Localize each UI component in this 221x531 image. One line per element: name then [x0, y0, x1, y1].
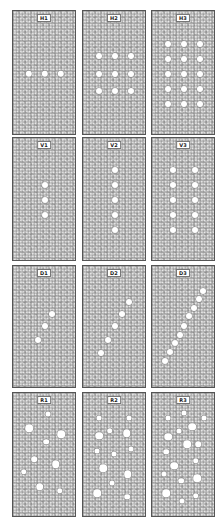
hole-dot: [170, 197, 176, 203]
hole-dot: [52, 460, 60, 468]
hole-dot: [96, 71, 102, 77]
hole-dot: [191, 305, 197, 311]
panel-r2: R2: [82, 392, 146, 517]
hole-dot: [128, 71, 134, 77]
panel-label: R2: [107, 396, 121, 404]
hole-dot: [31, 456, 37, 462]
hole-dot: [43, 439, 49, 445]
panel-label: D2: [107, 269, 121, 277]
hole-dot: [189, 423, 197, 431]
panel-r3: R3: [151, 392, 215, 517]
hole-dot: [112, 197, 118, 203]
hole-dot: [172, 340, 178, 346]
hole-dot: [167, 349, 173, 355]
hole-dot: [97, 416, 102, 421]
hole-dot: [128, 53, 134, 59]
panel-d3: D3: [151, 265, 215, 388]
hole-dot: [165, 56, 171, 62]
panel-label: D3: [176, 269, 190, 277]
hole-dot: [192, 227, 198, 233]
hole-dot: [49, 311, 55, 317]
hole-dot: [123, 429, 131, 437]
hole-dot: [181, 41, 187, 47]
hole-dot: [181, 56, 187, 62]
hole-dot: [170, 227, 176, 233]
hole-dot: [112, 212, 118, 218]
hole-dot: [182, 411, 187, 416]
hole-dot: [107, 428, 113, 434]
panel-label: V1: [37, 141, 51, 149]
hole-dot: [186, 313, 192, 319]
hole-dot: [42, 212, 48, 218]
hole-dot: [196, 296, 202, 302]
hole-dot: [181, 101, 187, 107]
hole-dot: [95, 448, 100, 453]
panel-label: V2: [107, 141, 121, 149]
hole-dot: [170, 167, 176, 173]
hole-dot: [197, 56, 203, 62]
hole-dot: [176, 428, 181, 433]
hole-dot: [181, 71, 187, 77]
panel-label: V3: [176, 141, 190, 149]
hole-dot: [96, 88, 102, 94]
hole-dot: [170, 212, 176, 218]
hole-dot: [192, 167, 198, 173]
hole-dot: [112, 167, 118, 173]
hole-dot: [166, 416, 171, 421]
hole-dot: [162, 489, 170, 497]
hole-dot: [112, 182, 118, 188]
panel-label: R3: [176, 396, 190, 404]
hole-dot: [129, 447, 134, 452]
hole-dot: [197, 101, 203, 107]
hole-dot: [197, 86, 203, 92]
hole-dot: [42, 182, 48, 188]
cell-texture: [152, 138, 214, 260]
hole-dot: [162, 358, 168, 364]
hole-dot: [112, 452, 117, 457]
hole-dot: [124, 470, 132, 478]
panel-label: R1: [37, 396, 51, 404]
hole-dot: [36, 483, 44, 491]
hole-dot: [112, 71, 118, 77]
panel-d2: D2: [82, 265, 146, 388]
hole-dot: [128, 88, 134, 94]
hole-dot: [109, 481, 114, 486]
hole-dot: [177, 332, 183, 338]
hole-dot: [93, 489, 101, 497]
cell-texture: [13, 393, 75, 516]
hole-dot: [112, 88, 118, 94]
hole-dot: [161, 472, 166, 477]
stimulus-figure: H1H2H3V1V2V3D1D2D3R1R2R3: [0, 0, 221, 531]
hole-dot: [197, 71, 203, 77]
hole-dot: [181, 323, 187, 329]
hole-dot: [164, 433, 172, 441]
hole-dot: [202, 416, 207, 421]
hole-dot: [194, 474, 202, 482]
hole-dot: [112, 227, 118, 233]
panel-r1: R1: [12, 392, 76, 517]
hole-dot: [35, 337, 41, 343]
hole-dot: [98, 350, 104, 356]
hole-dot: [42, 323, 48, 329]
hole-dot: [193, 458, 199, 464]
panel-label: H2: [107, 14, 121, 22]
hole-dot: [181, 86, 187, 92]
panel-h3: H3: [151, 10, 215, 135]
panel-label: H1: [37, 14, 51, 22]
hole-dot: [183, 440, 191, 448]
panel-h2: H2: [82, 10, 146, 135]
hole-dot: [112, 53, 118, 59]
panel-label: H3: [176, 14, 190, 22]
hole-dot: [192, 197, 198, 203]
panel-v1: V1: [12, 137, 76, 261]
hole-dot: [124, 494, 130, 500]
hole-dot: [180, 498, 185, 503]
hole-dot: [171, 462, 179, 470]
hole-dot: [195, 441, 201, 447]
hole-dot: [105, 337, 111, 343]
hole-dot: [95, 432, 103, 440]
hole-dot: [57, 430, 65, 438]
panel-v2: V2: [82, 137, 146, 261]
hole-dot: [25, 424, 33, 432]
panel-h1: H1: [12, 10, 76, 135]
